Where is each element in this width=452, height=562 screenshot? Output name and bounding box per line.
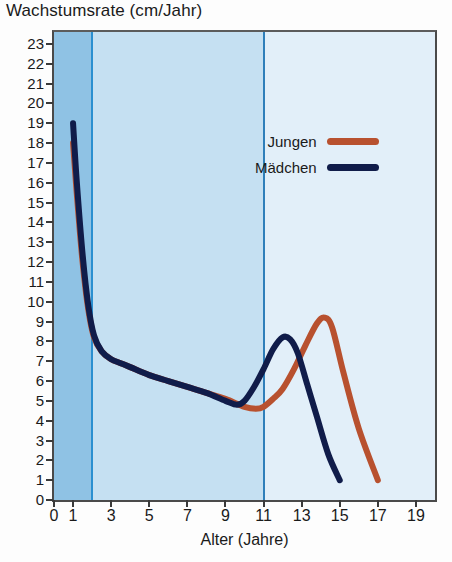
x-tick-mark [148, 500, 150, 507]
y-tick-mark [46, 221, 53, 223]
x-tick-label: 19 [407, 508, 425, 524]
legend-item-jungen: Jungen [255, 133, 379, 150]
y-tick-mark [46, 281, 53, 283]
plot-area [52, 30, 437, 502]
y-tick-label: 1 [10, 472, 44, 487]
chart-page: Wachstumsrate (cm/Jahr) 0123456789101112… [0, 0, 452, 562]
y-tick-label: 2 [10, 452, 44, 467]
y-tick-label: 7 [10, 353, 44, 368]
x-tick-mark [339, 500, 341, 507]
y-tick-mark [46, 261, 53, 263]
x-tick-mark [186, 500, 188, 507]
y-tick-label: 9 [10, 314, 44, 329]
series-lines [54, 32, 435, 500]
y-tick-label: 15 [10, 195, 44, 210]
y-tick-mark [46, 459, 53, 461]
y-tick-label: 4 [10, 413, 44, 428]
y-tick-label: 6 [10, 373, 44, 388]
legend-swatch-jungen [327, 138, 379, 145]
y-tick-mark [46, 142, 53, 144]
y-tick-mark [46, 380, 53, 382]
y-tick-mark [46, 321, 53, 323]
y-tick-mark [46, 440, 53, 442]
x-tick-label: 3 [107, 508, 116, 524]
y-tick-mark [46, 182, 53, 184]
y-tick-mark [46, 301, 53, 303]
x-tick-mark [415, 500, 417, 507]
x-tick-mark [377, 500, 379, 507]
y-tick-mark [46, 479, 53, 481]
x-tick-mark [263, 500, 265, 507]
y-tick-label: 20 [10, 95, 44, 110]
x-tick-label: 9 [221, 508, 230, 524]
y-tick-label: 5 [10, 393, 44, 408]
y-tick-label: 3 [10, 433, 44, 448]
x-tick-label: 1 [69, 508, 78, 524]
y-tick-label: 10 [10, 294, 44, 309]
x-tick-label: 17 [369, 508, 387, 524]
y-tick-label: 22 [10, 56, 44, 71]
y-tick-label: 12 [10, 254, 44, 269]
x-tick-mark [53, 500, 55, 507]
y-tick-label: 14 [10, 214, 44, 229]
y-tick-mark [46, 420, 53, 422]
y-tick-label: 11 [10, 274, 44, 289]
y-tick-label: 19 [10, 115, 44, 130]
y-tick-label: 21 [10, 76, 44, 91]
y-tick-label: 17 [10, 155, 44, 170]
x-tick-mark [301, 500, 303, 507]
legend-label-jungen: Jungen [268, 133, 317, 150]
x-tick-label: 0 [50, 508, 59, 524]
y-tick-mark [46, 83, 53, 85]
legend: Jungen Mädchen [255, 133, 379, 185]
x-tick-label: 5 [145, 508, 154, 524]
series-line-jungen [73, 143, 378, 480]
x-tick-label: 15 [331, 508, 349, 524]
x-axis-title: Alter (Jahre) [52, 531, 437, 549]
y-tick-mark [46, 499, 53, 501]
y-tick-mark [46, 360, 53, 362]
y-tick-mark [46, 63, 53, 65]
y-tick-label: 13 [10, 234, 44, 249]
x-tick-label: 11 [255, 508, 272, 524]
y-tick-label: 18 [10, 135, 44, 150]
legend-label-maedchen: Mädchen [255, 159, 317, 176]
y-tick-mark [46, 162, 53, 164]
x-tick-mark [224, 500, 226, 507]
y-tick-mark [46, 102, 53, 104]
y-tick-mark [46, 340, 53, 342]
page-title: Wachstumsrate (cm/Jahr) [6, 1, 202, 21]
y-tick-label: 23 [10, 36, 44, 51]
y-tick-label: 16 [10, 175, 44, 190]
y-tick-mark [46, 400, 53, 402]
x-tick-label: 7 [183, 508, 192, 524]
legend-swatch-maedchen [327, 164, 379, 171]
x-tick-mark [72, 500, 74, 507]
y-tick-mark [46, 241, 53, 243]
y-tick-mark [46, 43, 53, 45]
y-tick-label: 8 [10, 333, 44, 348]
legend-item-maedchen: Mädchen [255, 159, 379, 176]
y-tick-mark [46, 202, 53, 204]
y-tick-mark [46, 122, 53, 124]
x-tick-label: 13 [293, 508, 311, 524]
x-tick-mark [110, 500, 112, 507]
y-tick-label: 0 [10, 492, 44, 507]
